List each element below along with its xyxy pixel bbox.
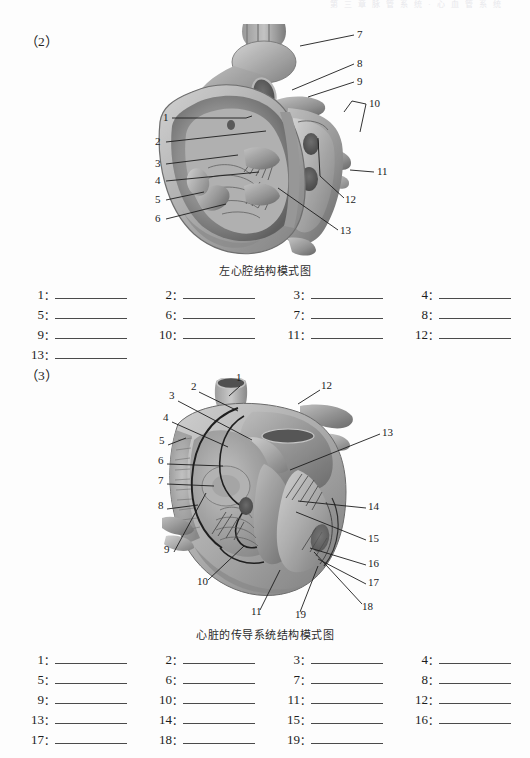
blank-rule[interactable] [55, 327, 127, 339]
blank-rule[interactable] [183, 672, 255, 684]
blank-rule[interactable] [311, 327, 383, 339]
figure1-label-4: 4 [155, 175, 161, 186]
blank-rule[interactable] [311, 732, 383, 744]
blank-colon: ： [428, 712, 437, 728]
blank-row-item[interactable]: 3 ： [283, 286, 411, 306]
blank-rule[interactable] [439, 712, 511, 724]
figure2-label-7: 7 [158, 475, 164, 486]
blank-colon: ： [428, 652, 437, 668]
blank-rule[interactable] [183, 712, 255, 724]
blank-rule[interactable] [439, 327, 511, 339]
blank-rule[interactable] [311, 307, 383, 319]
blank-number: 15 [283, 712, 300, 728]
blank-row-item[interactable]: 11 ： [283, 691, 411, 711]
blank-row-item[interactable]: 18 ： [155, 731, 283, 751]
blank-number: 6 [155, 307, 172, 323]
figure1-label-5: 5 [155, 194, 161, 205]
blank-row-item[interactable]: 10 ： [155, 691, 283, 711]
blank-number: 3 [283, 652, 300, 668]
blank-row-item[interactable]: 9 ： [27, 326, 155, 346]
figure1-label-6: 6 [155, 213, 161, 224]
blank-rule[interactable] [439, 287, 511, 299]
blank-number: 16 [411, 712, 428, 728]
blank-row-item[interactable]: 9 ： [27, 691, 155, 711]
figure2-label-11: 11 [251, 606, 262, 617]
blank-row-item[interactable]: 6 ： [155, 671, 283, 691]
blank-rule[interactable] [183, 307, 255, 319]
blank-number: 17 [27, 732, 44, 748]
blank-row-item[interactable]: 12 ： [411, 326, 530, 346]
blank-rule[interactable] [439, 672, 511, 684]
blank-number: 3 [283, 287, 300, 303]
blank-row-item[interactable]: 1 ： [27, 286, 155, 306]
blank-rule[interactable] [311, 652, 383, 664]
blank-row-item[interactable]: 15 ： [283, 711, 411, 731]
blank-rule[interactable] [183, 692, 255, 704]
blank-rule[interactable] [183, 327, 255, 339]
blank-row-item[interactable]: 3 ： [283, 651, 411, 671]
figure2-label-8: 8 [158, 500, 164, 511]
figure1-caption: 左心腔结构模式图 [0, 262, 530, 278]
blank-row-item[interactable]: 1 ： [27, 651, 155, 671]
figure2-label-18: 18 [362, 601, 373, 612]
blank-rule[interactable] [183, 652, 255, 664]
blank-row-item[interactable]: 11 ： [283, 326, 411, 346]
blank-row-item[interactable]: 2 ： [155, 286, 283, 306]
heart-figure-left-chambers-image [148, 22, 358, 262]
blank-rule[interactable] [55, 692, 127, 704]
blank-number: 18 [155, 732, 172, 748]
figure1-label-8: 8 [357, 58, 363, 69]
blank-rule[interactable] [439, 307, 511, 319]
blank-rule[interactable] [311, 672, 383, 684]
blank-rule[interactable] [311, 287, 383, 299]
blank-number: 1 [27, 652, 44, 668]
blank-row-item[interactable]: 8 ： [411, 671, 530, 691]
blank-row-item[interactable]: 16 ： [411, 711, 530, 731]
blank-rule[interactable] [55, 307, 127, 319]
blank-row-item[interactable]: 6 ： [155, 306, 283, 326]
blank-row-item[interactable]: 5 ： [27, 306, 155, 326]
blank-number: 12 [411, 327, 428, 343]
blank-rule[interactable] [55, 672, 127, 684]
blank-number: 7 [283, 672, 300, 688]
blank-rule[interactable] [183, 287, 255, 299]
blank-row-item[interactable]: 13 ： [27, 346, 155, 366]
blank-rule[interactable] [311, 692, 383, 704]
figure2-label-10: 10 [197, 576, 208, 587]
blank-row-item[interactable]: 17 ： [27, 731, 155, 751]
blank-rule[interactable] [439, 692, 511, 704]
blank-number: 4 [411, 652, 428, 668]
figure1-label-2: 2 [155, 136, 161, 147]
blank-row-item[interactable]: 10 ： [155, 326, 283, 346]
blank-row-item[interactable]: 8 ： [411, 306, 530, 326]
figure2-label-12: 12 [321, 380, 332, 391]
blank-row-item[interactable]: 19 ： [283, 731, 411, 751]
figure2-label-16: 16 [368, 558, 379, 569]
blank-row-item[interactable]: 7 ： [283, 306, 411, 326]
blank-rule[interactable] [55, 712, 127, 724]
blank-row-item[interactable]: 12 ： [411, 691, 530, 711]
blank-rule[interactable] [55, 347, 127, 359]
blank-rule[interactable] [439, 652, 511, 664]
blank-rule[interactable] [311, 712, 383, 724]
blank-rule[interactable] [55, 287, 127, 299]
blank-colon: ： [300, 732, 309, 748]
blank-row-item[interactable]: 4 ： [411, 651, 530, 671]
blank-row-item[interactable]: 2 ： [155, 651, 283, 671]
blank-row-item[interactable]: 13 ： [27, 711, 155, 731]
blank-colon: ： [172, 307, 181, 323]
blank-rule[interactable] [183, 732, 255, 744]
blank-colon: ： [300, 327, 309, 343]
blank-row-item[interactable]: 7 ： [283, 671, 411, 691]
blank-rule[interactable] [55, 732, 127, 744]
figure1-label-10: 10 [369, 98, 380, 109]
blank-colon: ： [300, 692, 309, 708]
blank-colon: ： [44, 307, 53, 323]
blank-row-item[interactable]: 5 ： [27, 671, 155, 691]
figure2-label-5: 5 [159, 435, 165, 446]
blank-rule[interactable] [55, 652, 127, 664]
figure1-label-11: 11 [377, 166, 388, 177]
blank-number: 7 [283, 307, 300, 323]
blank-row-item[interactable]: 14 ： [155, 711, 283, 731]
blank-row-item[interactable]: 4 ： [411, 286, 530, 306]
